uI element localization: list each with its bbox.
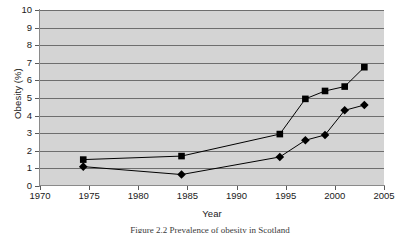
data-series-layer	[0, 0, 413, 233]
x-axis-title: Year	[40, 208, 384, 219]
data-point-square-series-0	[80, 156, 87, 163]
data-point-diamond-series-2	[276, 153, 285, 162]
series-line-square-series	[83, 67, 364, 159]
data-point-square-series-4	[322, 88, 329, 95]
figure-caption: Figure 2.2 Prevalence of obesity in Scot…	[30, 225, 390, 233]
data-point-square-series-6	[361, 64, 368, 71]
data-point-diamond-series-1	[177, 170, 186, 179]
figure-container: Obesity (%) 012345678910 197019751980198…	[0, 0, 413, 233]
data-point-square-series-1	[178, 153, 185, 160]
data-point-square-series-3	[302, 96, 309, 103]
data-point-square-series-2	[277, 131, 284, 138]
data-point-diamond-series-3	[301, 136, 310, 145]
data-point-square-series-5	[341, 83, 348, 90]
data-point-diamond-series-6	[360, 101, 369, 110]
data-point-diamond-series-0	[79, 162, 88, 171]
series-line-diamond-series	[83, 105, 364, 175]
